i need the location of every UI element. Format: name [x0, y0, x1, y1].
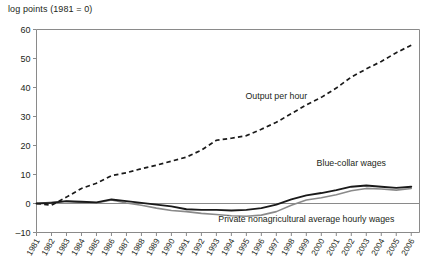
- y-tick-label: –10: [15, 228, 30, 238]
- y-tick-label: 0: [25, 199, 30, 209]
- x-tick-label: 1998: [280, 237, 297, 258]
- x-tick-label: 1996: [250, 237, 267, 258]
- x-tick-label: 1991: [175, 237, 192, 258]
- series-line-blue-collar-wages: [37, 186, 412, 211]
- y-tick-label: 20: [20, 141, 30, 151]
- x-tick-label: 2000: [310, 237, 327, 258]
- y-tick-label: 40: [20, 83, 30, 93]
- x-tick-label: 1992: [190, 237, 207, 258]
- data-series-group: [37, 45, 412, 216]
- x-tick-label: 2002: [340, 237, 357, 258]
- x-tick-label: 1981: [25, 237, 42, 258]
- x-tick-label: 1999: [295, 237, 312, 258]
- x-axis-ticks: 1981198219831984198519861987198819891990…: [25, 233, 417, 258]
- x-tick-label: 1994: [220, 237, 237, 258]
- chart-figure: log points (1981 = 0) –100102030405060 1…: [0, 0, 435, 277]
- x-tick-label: 2004: [370, 237, 387, 258]
- series-label-private-nonagricultural-average-hourly-wages: Private nonagricultural average hourly w…: [218, 214, 395, 224]
- x-tick-label: 1989: [145, 237, 162, 258]
- y-tick-label: 50: [20, 54, 30, 64]
- x-tick-label: 1985: [85, 237, 102, 258]
- x-tick-label: 2003: [355, 237, 372, 258]
- x-tick-label: 2001: [325, 237, 342, 258]
- x-tick-label: 1983: [55, 237, 72, 258]
- y-tick-label: 10: [20, 170, 30, 180]
- x-tick-label: 1993: [205, 237, 222, 258]
- x-tick-label: 1995: [235, 237, 252, 258]
- x-tick-label: 1990: [160, 237, 177, 258]
- line-chart-plot: –100102030405060 19811982198319841985198…: [0, 0, 435, 277]
- x-tick-label: 1982: [40, 237, 57, 258]
- x-tick-label: 2006: [400, 237, 417, 258]
- x-tick-label: 2005: [385, 237, 402, 258]
- series-line-output-per-hour: [37, 45, 412, 205]
- y-axis-ticks: –100102030405060: [15, 25, 36, 238]
- x-tick-label: 1986: [100, 237, 117, 258]
- x-tick-label: 1988: [130, 237, 147, 258]
- y-tick-label: 60: [20, 25, 30, 35]
- series-label-output-per-hour: Output per hour: [246, 91, 308, 101]
- bottom-cut-text: [0, 270, 435, 277]
- x-tick-label: 1987: [115, 237, 132, 258]
- series-label-blue-collar-wages: Blue-collar wages: [317, 158, 387, 168]
- series-annotations: Output per hourBlue-collar wagesPrivate …: [218, 91, 395, 224]
- y-tick-label: 30: [20, 112, 30, 122]
- x-tick-label: 1984: [70, 237, 87, 258]
- x-tick-label: 1997: [265, 237, 282, 258]
